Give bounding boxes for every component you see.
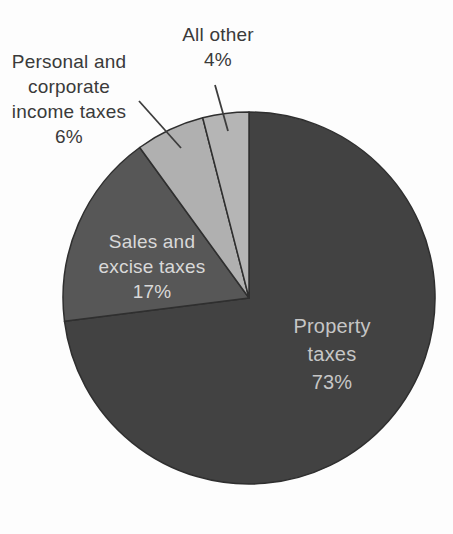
- label-sales-value: 17%: [92, 279, 212, 304]
- label-all-other-line: All other: [158, 22, 278, 47]
- label-all-other: All other 4%: [158, 22, 278, 72]
- label-property-value: 73%: [272, 368, 392, 396]
- label-income-taxes-line: income taxes: [0, 99, 138, 124]
- label-sales-excise-taxes: Sales and excise taxes 17%: [92, 229, 212, 304]
- label-income-taxes: Personal and corporate income taxes 6%: [0, 49, 138, 149]
- pie-chart-figure: Personal and corporate income taxes 6% A…: [0, 0, 453, 534]
- label-property-taxes: Property taxes 73%: [272, 312, 392, 396]
- label-income-taxes-value: 6%: [0, 124, 138, 149]
- label-sales-line: Sales and: [92, 229, 212, 254]
- label-all-other-value: 4%: [158, 47, 278, 72]
- label-income-taxes-line: Personal and: [0, 49, 138, 74]
- label-property-line: taxes: [272, 340, 392, 368]
- label-sales-line: excise taxes: [92, 254, 212, 279]
- label-property-line: Property: [272, 312, 392, 340]
- label-income-taxes-line: corporate: [0, 74, 138, 99]
